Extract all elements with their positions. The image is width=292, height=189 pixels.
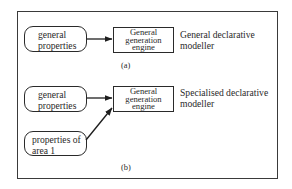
arrows-layer [0, 0, 292, 189]
arrow-b-area [86, 108, 112, 140]
